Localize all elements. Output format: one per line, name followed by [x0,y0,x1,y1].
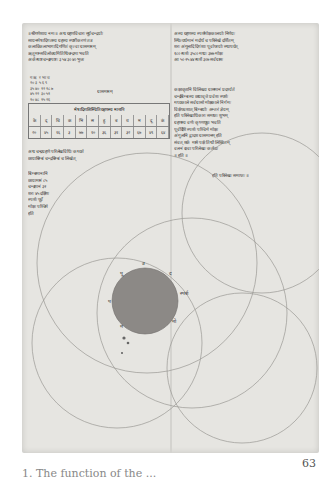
diagram-label: उ [142,260,145,266]
diagram-label: मो [172,318,177,324]
page-number: 63 [302,457,316,470]
diagram-label: द [169,270,172,276]
eclipse-diagram: उ पू प द स्पर्श मो म [22,23,319,453]
manuscript-page: ॥श्रीगणेशाय नमः॥ अथ ग्रहणविचारः सूर्यचन्… [22,23,319,453]
orbit-circle-lower-right [167,293,317,443]
figure-caption: 1. The function of the ... [22,467,156,480]
diagram-label: स्पर्श [180,290,189,296]
orbit-circle-right [182,133,319,293]
orbit-circle-large [37,153,257,373]
diagram-label: प [108,298,111,304]
